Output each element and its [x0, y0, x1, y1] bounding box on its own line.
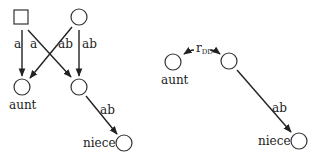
edge-label-a-1: a	[14, 37, 21, 51]
top-circle-node	[71, 9, 87, 25]
aunt-label: aunt	[9, 98, 37, 112]
left-diagram: a a ab ab ab aunt niece	[9, 9, 132, 151]
square-node	[14, 10, 28, 24]
niece-node	[116, 135, 132, 151]
edge-label-ab-right: ab	[272, 101, 287, 115]
niece-node-right	[291, 133, 307, 149]
edge-label-ab-1: ab	[58, 37, 73, 51]
edge-label-ab-2: ab	[82, 37, 97, 51]
right-diagram: rDD ab aunt niece	[161, 41, 307, 149]
middle-circle-node	[71, 79, 87, 95]
edge-rdd-left	[184, 50, 194, 54]
aunt-node	[14, 79, 30, 95]
edge-label-ab-3: ab	[100, 103, 115, 117]
middle-circle-node-right	[221, 53, 237, 69]
edge-label-a-2: a	[30, 37, 37, 51]
niece-label: niece	[83, 136, 116, 150]
aunt-label-right: aunt	[161, 73, 189, 87]
aunt-node-right	[165, 54, 181, 70]
niece-label-right: niece	[258, 134, 291, 148]
kinship-diagram: a a ab ab ab aunt niece rDD ab aunt niec…	[0, 0, 317, 158]
rdd-label: rDD	[196, 41, 213, 56]
